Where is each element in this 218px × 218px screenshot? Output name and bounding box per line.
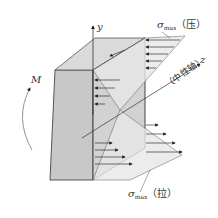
moment-label: M (31, 75, 41, 85)
diagram-graphic (0, 0, 218, 218)
sigma-max-tension-label: σmax（拉） (128, 189, 177, 200)
sigma-max-compression-label: σmax（压） (157, 20, 206, 31)
moment-arc (22, 88, 32, 150)
beam-front-face (50, 70, 93, 180)
y-axis-label: y (97, 22, 103, 32)
beam-stress-diagram: y z M σmax（压） σmax（拉） （中性轴） (0, 0, 218, 218)
